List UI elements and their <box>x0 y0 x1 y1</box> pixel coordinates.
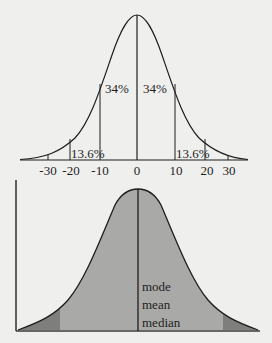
label-mode: mode <box>142 279 171 294</box>
tick-label: 30 <box>223 163 236 178</box>
tick-label: -30 <box>39 163 56 178</box>
left-tail-fill <box>0 180 60 332</box>
label-mean: mean <box>142 297 171 312</box>
center-fill <box>0 180 272 332</box>
label-34-right: 34% <box>143 81 167 96</box>
bottom-distribution-chart: mode mean median <box>0 180 272 332</box>
top-normal-curve-chart: 34% 34% 13.6% 13.6% -30 -20 -10 0 10 20 … <box>20 15 248 178</box>
tick-label: -20 <box>62 163 79 178</box>
tick-label: 10 <box>170 163 183 178</box>
top-bell-curve <box>20 15 248 160</box>
tick-label: -10 <box>91 163 108 178</box>
diagram-canvas: 34% 34% 13.6% 13.6% -30 -20 -10 0 10 20 … <box>0 0 272 343</box>
right-tail-fill <box>223 180 272 332</box>
label-34-left: 34% <box>105 81 129 96</box>
label-median: median <box>142 315 181 330</box>
tick-label: 0 <box>134 163 141 178</box>
top-axis-tick-labels: -30 -20 -10 0 10 20 30 <box>39 163 235 178</box>
tick-label: 20 <box>201 163 214 178</box>
label-13-6-right: 13.6% <box>176 146 210 161</box>
label-13-6-left: 13.6% <box>71 146 105 161</box>
